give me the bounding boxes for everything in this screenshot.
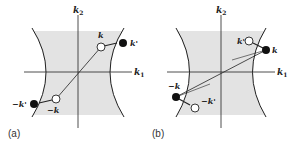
k1-axis-label: k1 <box>277 67 287 78</box>
point-negk-open <box>52 95 60 103</box>
label-negkprime: −k' <box>201 96 216 106</box>
point-negkprime-filled <box>30 100 38 108</box>
point-k-filled <box>262 46 270 54</box>
point-negkprime-open <box>191 104 199 112</box>
point-kprime-filled <box>119 39 127 47</box>
label-kprime: k' <box>130 38 138 48</box>
label-negk: −k <box>47 105 60 115</box>
label-negk: −k <box>168 81 181 91</box>
label-kprime: k' <box>237 36 245 46</box>
point-negk-filled <box>172 93 180 101</box>
panel-a: k2 k1 k k' −k −k' (a) <box>8 5 144 139</box>
panel-b: k2 k1 k' k −k −k' (b) <box>152 5 287 139</box>
point-k-open <box>97 43 105 51</box>
point-kprime-open <box>245 37 253 45</box>
caption-b: (b) <box>152 128 164 139</box>
caption-a: (a) <box>8 128 20 139</box>
label-k: k <box>272 45 278 55</box>
k2-axis-label: k2 <box>216 5 226 16</box>
label-k: k <box>98 30 104 40</box>
k1-axis-label: k1 <box>134 67 144 78</box>
label-negkprime: −k' <box>12 99 27 109</box>
figure: k2 k1 k k' −k −k' (a) k2 k1 <box>0 0 296 152</box>
k2-axis-label: k2 <box>73 5 83 16</box>
